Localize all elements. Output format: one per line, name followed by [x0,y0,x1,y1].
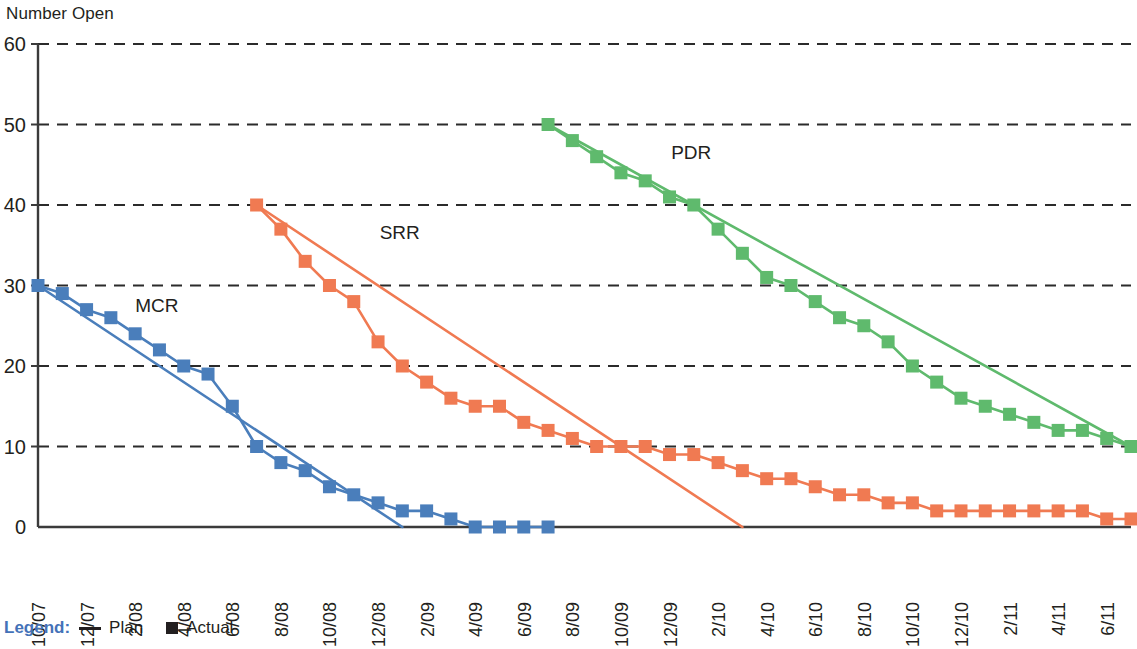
svg-text:10/10: 10/10 [903,602,923,647]
svg-text:12/10: 12/10 [952,602,972,647]
svg-text:20: 20 [4,355,26,377]
svg-text:MCR: MCR [135,295,178,316]
square-swatch-icon [166,622,178,634]
svg-text:4/11: 4/11 [1049,602,1069,636]
svg-text:30: 30 [4,275,26,297]
legend-title: Legend: [4,618,70,638]
svg-text:6/11: 6/11 [1098,602,1118,636]
svg-text:4/09: 4/09 [466,602,486,637]
svg-text:50: 50 [4,114,26,136]
svg-text:2/11: 2/11 [1001,602,1021,636]
svg-text:8/10: 8/10 [855,602,875,637]
svg-text:40: 40 [4,194,26,216]
chart-plot-area: 0102030405060 MCRSRRPDR 10/0712/072/084/… [0,0,1137,649]
svg-text:10/08: 10/08 [320,602,340,647]
data-point-markers [32,118,1137,534]
svg-text:6/09: 6/09 [515,602,535,637]
legend-label-actual: Actual [186,618,233,638]
y-axis-tick-labels: 0102030405060 [4,33,26,538]
axis-lines [38,44,1131,527]
plan-lines [38,125,1131,528]
svg-text:12/09: 12/09 [661,602,681,647]
svg-text:8/08: 8/08 [272,602,292,637]
svg-text:12/08: 12/08 [369,602,389,647]
svg-text:2/10: 2/10 [709,602,729,637]
svg-text:4/10: 4/10 [758,602,778,637]
legend-entry-actual: Actual [166,618,233,638]
svg-text:PDR: PDR [671,142,711,163]
burndown-chart: Number Open 0102030405060 MCRSRRPDR 10/0… [0,0,1137,649]
legend-entry-plan: Plan [79,618,143,638]
svg-text:10: 10 [4,436,26,458]
actual-lines [38,125,1131,528]
legend: Legend: Plan Actual [4,618,233,638]
legend-label-plan: Plan [109,618,143,638]
svg-text:60: 60 [4,33,26,55]
svg-text:SRR: SRR [380,222,420,243]
svg-text:2/09: 2/09 [418,602,438,637]
grid-lines [31,44,1131,447]
svg-text:8/09: 8/09 [563,602,583,637]
line-swatch-icon [79,627,101,630]
svg-text:6/10: 6/10 [806,602,826,637]
svg-text:10/09: 10/09 [612,602,632,647]
svg-text:0: 0 [15,516,26,538]
